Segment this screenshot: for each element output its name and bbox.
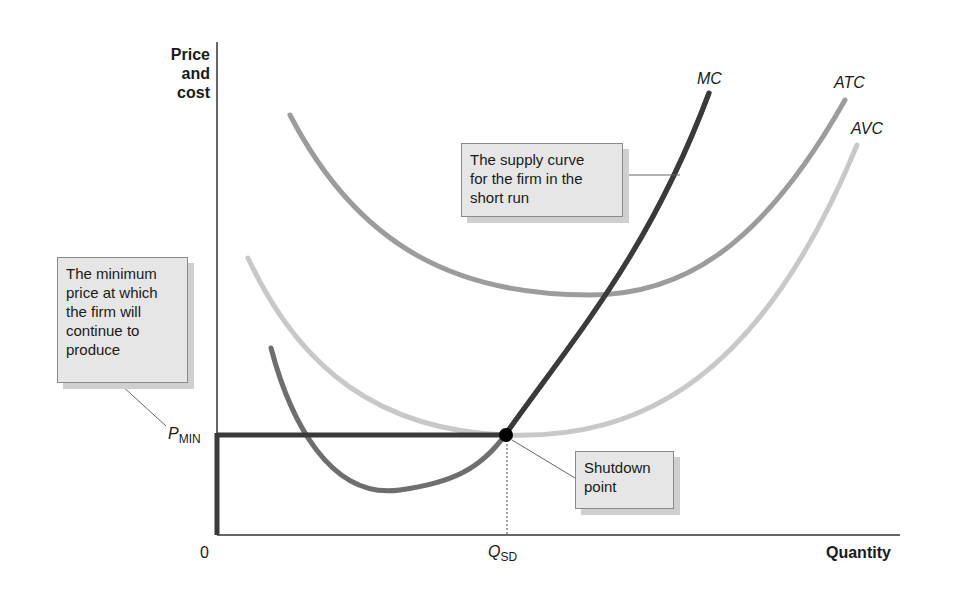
- y-label-line-2: and: [150, 64, 210, 83]
- shutdown-callout-line: Shutdown: [584, 458, 665, 477]
- minprice-callout-line: produce: [66, 340, 179, 359]
- supply-callout-line: The supply curve: [470, 150, 614, 169]
- pmin-tick-label: PMIN: [168, 425, 201, 446]
- minprice-callout-line: the firm will: [66, 302, 179, 321]
- x-axis-label: Quantity: [826, 544, 891, 562]
- supply-curve-callout: The supply curve for the firm in the sho…: [461, 143, 623, 217]
- qsd-sub: SD: [500, 550, 517, 564]
- y-axis-label: Price and cost: [150, 45, 210, 102]
- qsd-main: Q: [488, 543, 500, 560]
- pmin-sub: MIN: [179, 432, 201, 446]
- mc-label: MC: [697, 70, 722, 88]
- minprice-callout-line: continue to: [66, 321, 179, 340]
- avc-label: AVC: [851, 120, 883, 138]
- shutdown-point-marker: [499, 428, 513, 442]
- minimum-price-callout: The minimum price at which the firm will…: [57, 257, 188, 383]
- shutdown-callout-leader: [512, 440, 575, 478]
- minprice-callout-line: The minimum: [66, 264, 179, 283]
- pmin-main: P: [168, 425, 179, 442]
- qsd-tick-label: QSD: [488, 543, 517, 564]
- y-label-line-1: Price: [150, 45, 210, 64]
- atc-label: ATC: [834, 74, 865, 92]
- minprice-callout-leader: [120, 384, 166, 426]
- shutdown-point-callout: Shutdown point: [575, 451, 674, 509]
- y-label-line-3: cost: [150, 83, 210, 102]
- supply-callout-line: short run: [470, 188, 614, 207]
- shutdown-callout-line: point: [584, 477, 665, 496]
- minprice-callout-line: price at which: [66, 283, 179, 302]
- origin-label: 0: [200, 544, 209, 562]
- supply-callout-line: for the firm in the: [470, 169, 614, 188]
